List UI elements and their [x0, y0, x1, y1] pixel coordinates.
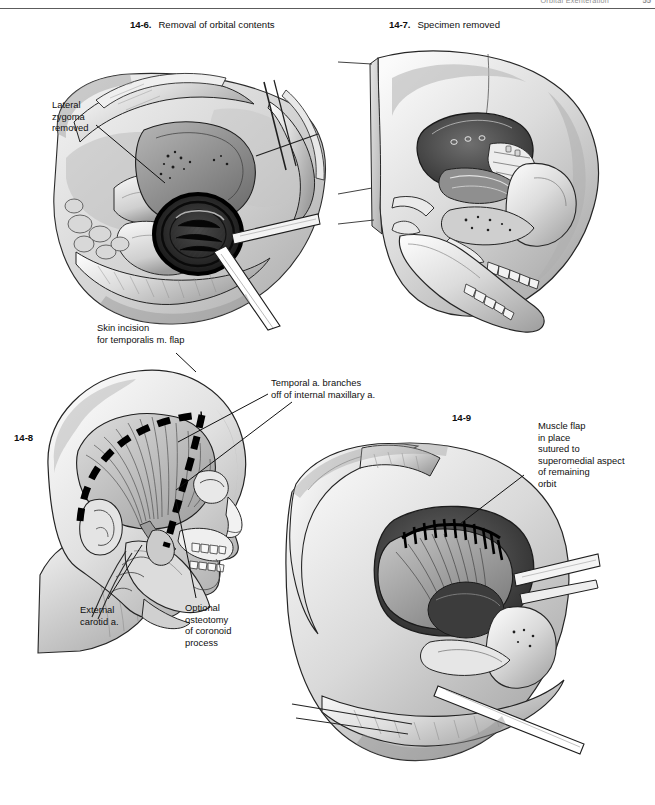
figure-14-6-title: Removal of orbital contents [158, 19, 274, 30]
figure-14-7-caption: 14-7.Specimen removed [389, 19, 500, 30]
figure-14-7-illustration [338, 38, 638, 340]
header-rule [0, 8, 655, 9]
annotation-external-carotid: External carotid a. [80, 604, 119, 627]
figure-14-6-number: 14-6. [130, 19, 151, 30]
running-head-title: Orbital Exenteration [540, 0, 609, 5]
annotation-skin-incision: Skin incision for temporalis m. flap [97, 322, 185, 345]
annotation-temporal-artery: Temporal a. branches off of internal max… [271, 377, 375, 400]
figure-14-6-illustration [18, 38, 348, 338]
figure-14-7-title: Specimen removed [417, 19, 500, 30]
figure-14-6-caption: 14-6.Removal of orbital contents [130, 19, 275, 30]
figure-14-9-number: 14-9 [452, 412, 471, 423]
figure-14-8-illustration [30, 355, 280, 655]
figure-14-7-number: 14-7. [389, 19, 410, 30]
annotation-muscle-flap: Muscle flap in place sutured to superome… [538, 420, 625, 490]
annotation-lateral-zygoma-removed: Lateral zygoma removed [52, 99, 88, 134]
figure-14-8-number: 14-8 [14, 432, 33, 443]
page-folio: 55 [643, 0, 651, 5]
annotation-optional-osteotomy: Optional osteotomy of coronoid process [185, 602, 231, 648]
textbook-page: Orbital Exenteration 55 [0, 0, 655, 805]
